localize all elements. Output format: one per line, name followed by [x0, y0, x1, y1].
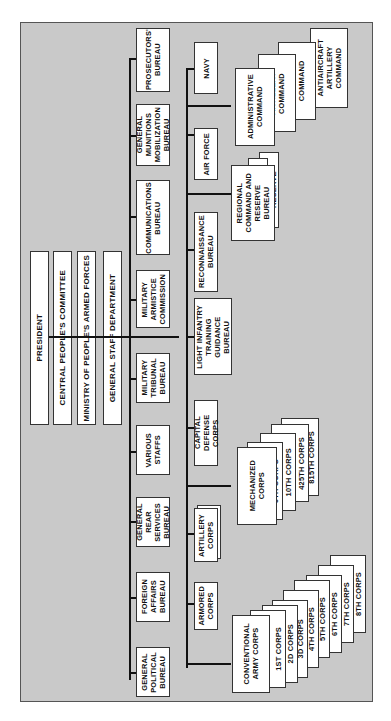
label: 425TH CORPS	[297, 437, 306, 490]
label: ADMINISTRATIVE COMMAND	[246, 74, 264, 139]
label: MECHANIZED CORPS	[248, 460, 266, 511]
chain-connector	[49, 336, 179, 338]
label: 7TH CORPS	[342, 582, 351, 626]
label: MILITARY ARMISTICE COMMISSION	[140, 274, 167, 324]
label: CAPITAL DEFENSE CORPS	[193, 401, 220, 465]
label: CONVENTIONAL ARMY CORPS	[242, 623, 260, 685]
label: FOREIGN AFFAIRS BUREAU	[140, 579, 167, 614]
label: PROSECUTORS' BUREAU	[144, 29, 162, 90]
label: AIR FORCE	[202, 133, 211, 175]
label: ANTIAIRCRAFT ARTILLERY COMMAND	[316, 39, 343, 96]
air-force-box: AIR FORCE	[194, 128, 218, 180]
president-label: PRESIDENT	[35, 314, 45, 362]
administrative-command-box: ADMINISTRATIVE COMMAND	[235, 68, 275, 146]
tick	[186, 134, 194, 136]
armored-corps-box: ARMORED CORPS	[194, 582, 218, 630]
tick	[186, 68, 194, 70]
label: RECONNAISSANCE BUREAU	[197, 215, 215, 288]
tick	[186, 105, 231, 107]
label: REGIONAL COMMAND AND RESERVE BUREAU	[235, 173, 271, 232]
central-peoples-committee-box: CENTRAL PEOPLE'S COMMITTEE	[53, 251, 72, 425]
label: 4TH CORPS	[307, 607, 316, 651]
tick	[186, 249, 194, 251]
tick	[186, 663, 231, 665]
label: VARIOUS STAFFS	[144, 433, 162, 468]
label: ARMORED CORPS	[197, 586, 215, 626]
label: GENERAL MUNITIONS MOBILIZATION BUREAU	[135, 107, 171, 162]
label: ARTILLERY CORPS	[197, 514, 215, 557]
tick	[186, 485, 231, 487]
label: GENERAL REAR SERVICES BUREAU	[135, 503, 171, 542]
mechanized-corps-box: MECHANIZED CORPS	[237, 447, 277, 525]
label: 10TH CORPS	[284, 448, 293, 496]
forces-spine	[186, 68, 188, 668]
general-political-bureau-box: GENERAL POLITICAL BUREAU	[136, 647, 170, 697]
label: NAVY	[202, 58, 211, 79]
staff-spine	[129, 58, 131, 680]
general-rear-services-bureau-box: GENERAL REAR SERVICES BUREAU	[136, 497, 170, 547]
military-tribunal-bureau-box: MILITARY TRIBUNAL BUREAU	[136, 353, 170, 403]
light-infantry-training-guidance-bureau-box: LIGHT INFANTRY TRAINING GUIDANCE BUREAU	[194, 298, 232, 375]
label: 5TH CORPS	[318, 597, 327, 641]
prosecutors-bureau-box: PROSECUTORS' BUREAU	[136, 28, 170, 92]
various-staffs-box: VARIOUS STAFFS	[136, 425, 170, 475]
tick	[186, 193, 231, 195]
label: 6TH CORPS	[330, 592, 339, 636]
label: COMMUNICATIONS BUREAU	[144, 182, 162, 254]
tick	[186, 336, 194, 338]
conventional-army-corps-box: CONVENTIONAL ARMY CORPS	[232, 615, 270, 693]
capital-defense-corps-box: CAPITAL DEFENSE CORPS	[194, 400, 218, 466]
label: 8TH CORPS	[354, 572, 363, 616]
artillery-corps-box: ARTILLERY CORPS	[194, 508, 218, 562]
label: MILITARY TRIBUNAL BUREAU	[140, 358, 167, 397]
regional-command-reserve-bureau-box: REGIONAL COMMAND AND RESERVE BUREAU	[231, 165, 275, 241]
communications-bureau-box: COMMUNICATIONS BUREAU	[136, 180, 170, 255]
label: 1ST CORPS	[274, 627, 283, 671]
foreign-affairs-bureau-box: FOREIGN AFFAIRS BUREAU	[136, 572, 170, 622]
military-armistice-commission-box: MILITARY ARMISTICE COMMISSION	[136, 270, 170, 328]
label: LIGHT INFANTRY TRAINING GUIDANCE BUREAU	[195, 305, 231, 369]
navy-box: NAVY	[194, 42, 218, 94]
reconnaissance-bureau-box: RECONNAISSANCE BUREAU	[194, 212, 218, 292]
tick	[186, 603, 194, 605]
label: 2D CORPS	[286, 624, 295, 663]
label: GENERAL POLITICAL BUREAU	[140, 652, 167, 693]
president-box: PRESIDENT	[30, 251, 49, 425]
tick	[186, 533, 194, 535]
general-staff-department-box: GENERAL STAFF DEPARTMENT	[103, 251, 122, 425]
ministry-armed-forces-box: MINISTRY OF PEOPLE'S ARMED FORCES	[77, 251, 96, 425]
general-munitions-mobilization-bureau-box: GENERAL MUNITIONS MOBILIZATION BUREAU	[136, 104, 170, 166]
